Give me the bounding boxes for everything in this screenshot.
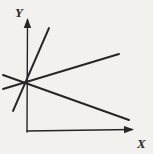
- x-axis-label: X: [136, 136, 146, 151]
- diagram-svg: Y X: [0, 0, 153, 154]
- y-axis-label: Y: [15, 5, 24, 20]
- coordinate-diagram: Y X: [0, 0, 153, 154]
